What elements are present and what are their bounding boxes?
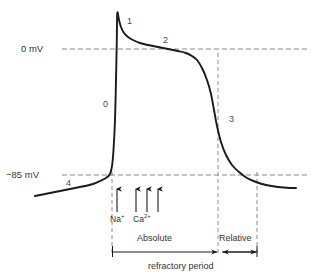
calcium-symbol: Ca: [133, 214, 144, 224]
phase-1-label: 1: [127, 17, 132, 26]
sodium-symbol: Na: [110, 214, 121, 224]
absolute-refractory-label: Absolute: [137, 234, 172, 243]
sodium-label: Na+: [110, 215, 124, 224]
calcium-charge: 2+: [144, 213, 151, 219]
resting-mv-axis-label: −85 mV: [6, 170, 39, 180]
sodium-charge: +: [121, 213, 125, 219]
zero-mv-axis-label: 0 mV: [21, 44, 43, 54]
phase-3-label: 3: [229, 115, 234, 124]
calcium-label: Ca2+: [133, 215, 151, 224]
action-potential-figure: 0 mV −85 mV 0 1 2 3 4 Na+ Ca2+ Absolute …: [0, 0, 313, 279]
phase-0-label: 0: [103, 100, 108, 109]
ion-arrow-group: [117, 189, 158, 212]
relative-refractory-label: Relative: [219, 234, 252, 243]
phase-2-label: 2: [163, 36, 168, 45]
phase-4-label: 4: [66, 179, 71, 188]
refractory-period-caption: refractory period: [148, 262, 214, 271]
refractory-span-group: [113, 246, 258, 257]
